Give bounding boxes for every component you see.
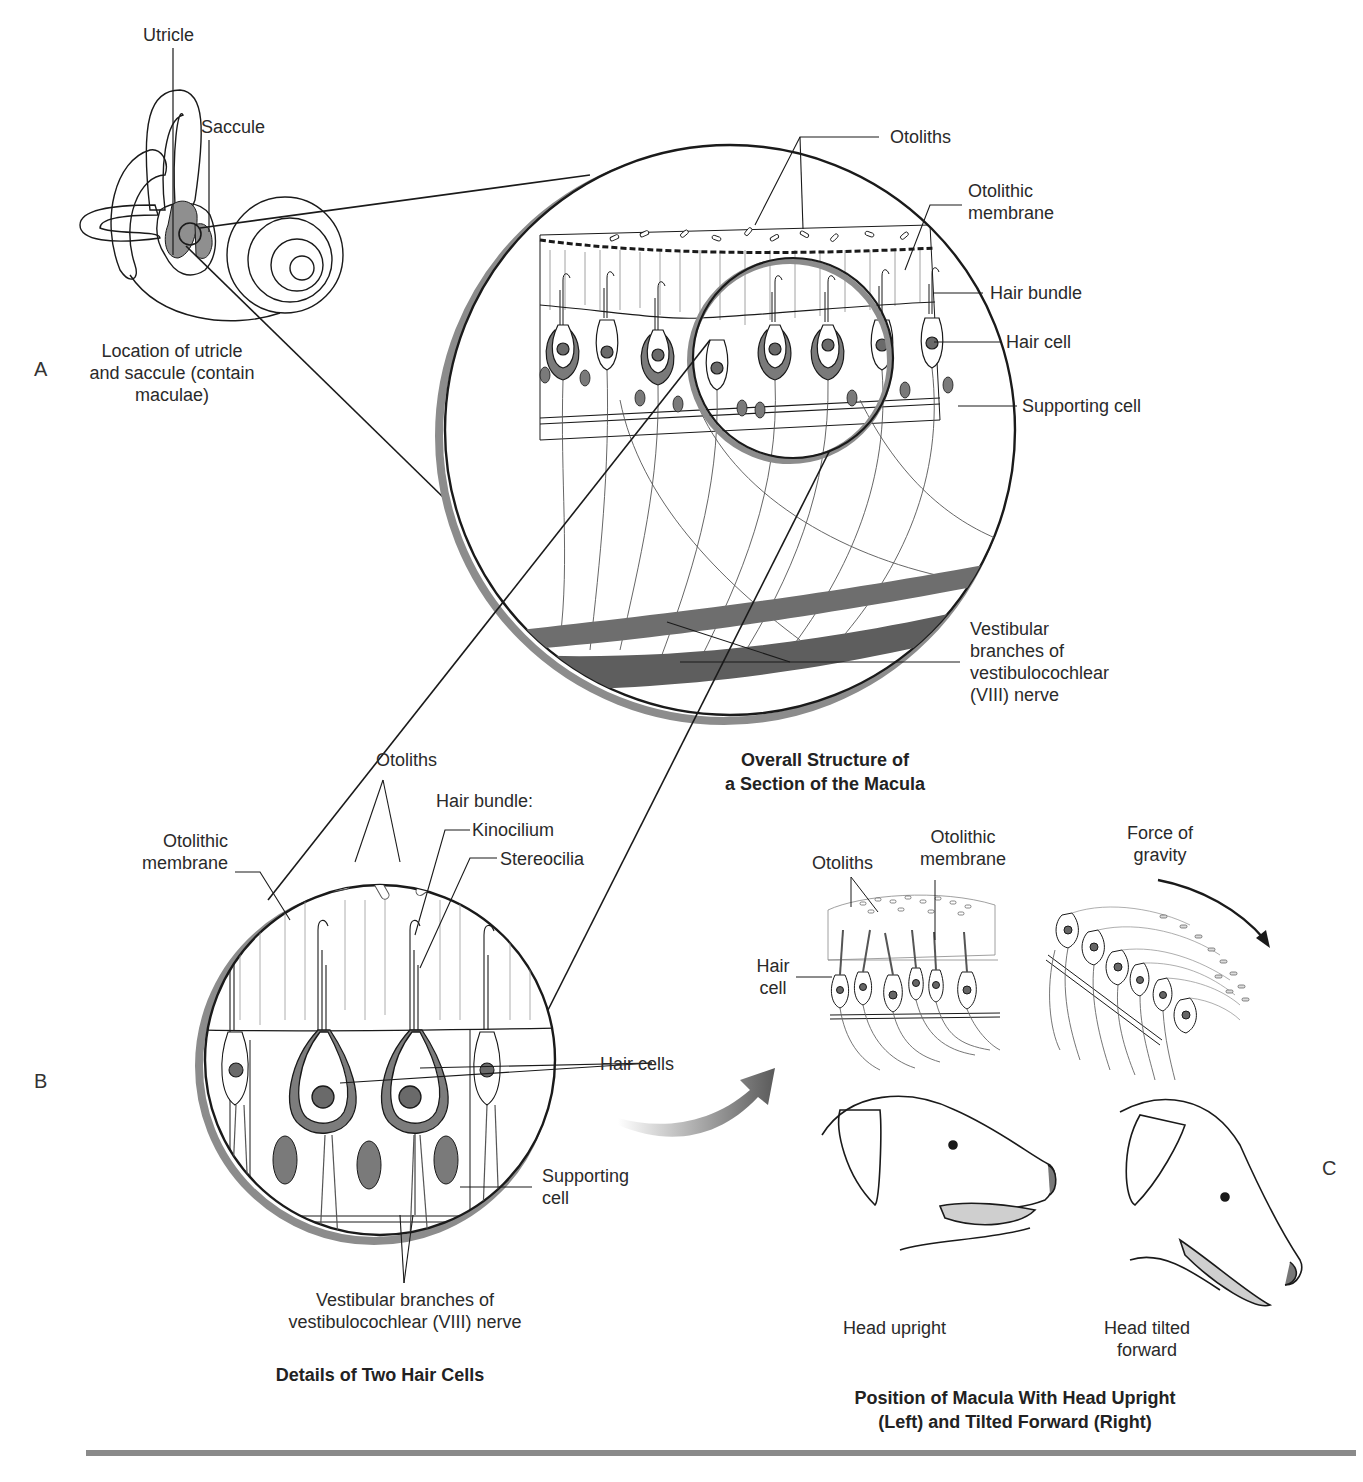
utricle-shape xyxy=(165,201,197,258)
title-macula-position: Position of Macula With Head Upright (Le… xyxy=(830,1386,1200,1434)
label-otoliths-detail: Otoliths xyxy=(376,749,437,771)
macula-illustration xyxy=(0,0,1363,1482)
transition-arrow-icon xyxy=(618,1068,775,1137)
label-supporting-line1: Supporting xyxy=(542,1165,629,1187)
label-otolithic-detail-line2: membrane xyxy=(128,852,228,874)
caption-location-line1: Location of utricle xyxy=(72,340,272,362)
label-vestibular-nerve-detail: Vestibular branches of vestibulocochlear… xyxy=(250,1289,560,1333)
label-head-upright: Head upright xyxy=(843,1317,946,1339)
title-two-hair-cells: Details of Two Hair Cells xyxy=(240,1363,520,1387)
label-supporting-cell-detail: Supporting cell xyxy=(542,1165,629,1209)
title-position-line1: Position of Macula With Head Upright xyxy=(830,1386,1200,1410)
label-utricle: Utricle xyxy=(143,24,194,46)
label-supporting-line2: cell xyxy=(542,1187,629,1209)
label-force-line1: Force of xyxy=(1110,822,1210,844)
label-hair-cell-overall: Hair cell xyxy=(1006,331,1071,353)
label-hair-cell-c: Hair cell xyxy=(748,955,798,999)
panel-label-b: B xyxy=(34,1070,47,1093)
label-otolithic-c-line2: membrane xyxy=(898,848,1028,870)
label-tilted-line1: Head tilted xyxy=(1092,1317,1202,1339)
label-otolithic-membrane-detail: Otolithic membrane xyxy=(128,830,228,874)
macula-tilted xyxy=(1046,907,1249,1080)
panel-label-c: C xyxy=(1322,1157,1336,1180)
label-nerve-line1: Vestibular xyxy=(970,618,1109,640)
label-otolithic-line1: Otolithic xyxy=(968,180,1054,202)
label-tilted-line2: forward xyxy=(1092,1339,1202,1361)
label-hair-bundle-overall: Hair bundle xyxy=(990,282,1082,304)
label-kinocilium: Kinocilium xyxy=(472,819,554,841)
gravity-arrow-icon xyxy=(1158,880,1265,940)
label-saccule: Saccule xyxy=(201,116,265,138)
label-nerve-detail-line1: Vestibular branches of xyxy=(250,1289,560,1311)
bottom-divider xyxy=(86,1450,1356,1456)
label-otoliths-c: Otoliths xyxy=(812,852,873,874)
label-nerve-line3: vestibulocochlear xyxy=(970,662,1109,684)
label-otolithic-c-line1: Otolithic xyxy=(898,826,1028,848)
label-otoliths-overall: Otoliths xyxy=(890,126,951,148)
label-otolithic-line2: membrane xyxy=(968,202,1054,224)
title-overall-structure: Overall Structure of a Section of the Ma… xyxy=(680,748,970,796)
label-hair-c-line1: Hair xyxy=(748,955,798,977)
caption-location: Location of utricle and saccule (contain… xyxy=(72,340,272,406)
label-otolithic-membrane-c: Otolithic membrane xyxy=(898,826,1028,870)
dog-head-upright xyxy=(822,1096,1056,1250)
caption-location-line2: and saccule (contain xyxy=(72,362,272,384)
title-overall-line1: Overall Structure of xyxy=(680,748,970,772)
label-otolithic-detail-line1: Otolithic xyxy=(128,830,228,852)
label-stereocilia: Stereocilia xyxy=(500,848,584,870)
label-force-line2: gravity xyxy=(1110,844,1210,866)
panel-label-a: A xyxy=(34,358,47,381)
label-nerve-line4: (VIII) nerve xyxy=(970,684,1109,706)
label-head-tilted: Head tilted forward xyxy=(1092,1317,1202,1361)
label-hair-bundle-detail: Hair bundle: xyxy=(436,790,533,812)
hair-cell-detail-circle xyxy=(205,885,555,1235)
label-nerve-detail-line2: vestibulocochlear (VIII) nerve xyxy=(250,1311,560,1333)
label-vestibular-nerve-overall: Vestibular branches of vestibulocochlear… xyxy=(970,618,1109,706)
label-supporting-cell-overall: Supporting cell xyxy=(1022,395,1141,417)
label-otolithic-membrane-overall: Otolithic membrane xyxy=(968,180,1054,224)
macula-upright xyxy=(828,895,1000,1070)
label-force-of-gravity: Force of gravity xyxy=(1110,822,1210,866)
title-position-line2: (Left) and Tilted Forward (Right) xyxy=(830,1410,1200,1434)
label-nerve-line2: branches of xyxy=(970,640,1109,662)
caption-location-line3: maculae) xyxy=(72,384,272,406)
title-overall-line2: a Section of the Macula xyxy=(680,772,970,796)
label-hair-cells: Hair cells xyxy=(600,1053,674,1075)
dog-head-tilted xyxy=(1120,1100,1302,1306)
label-hair-c-line2: cell xyxy=(748,977,798,999)
